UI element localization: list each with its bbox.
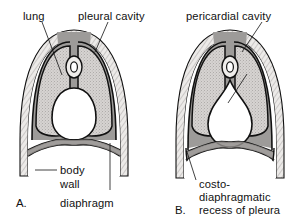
pericardial-cavity-a bbox=[52, 88, 96, 140]
panel-a-letter: A. bbox=[16, 197, 27, 209]
vertebral-body-b bbox=[222, 56, 238, 78]
label-costo-line1: costo- bbox=[199, 178, 230, 190]
panel-b-letter: B. bbox=[175, 204, 186, 216]
label-diaphragm: diaphragm bbox=[60, 197, 114, 209]
label-pericardial-cavity: pericardial cavity bbox=[186, 10, 271, 22]
thorax-cross-section-diagram: lung pleural cavity body wall diaphragm … bbox=[0, 0, 305, 220]
anatomy-figure: lung pleural cavity body wall diaphragm … bbox=[0, 0, 305, 220]
label-costo-line3: recess of pleura bbox=[199, 204, 281, 216]
label-body-wall-line1: body bbox=[60, 164, 85, 176]
label-body-wall-line2: wall bbox=[59, 178, 80, 190]
vertebral-body-a bbox=[66, 56, 82, 78]
label-costo-line2: diaphragmatic bbox=[199, 191, 271, 203]
label-lung: lung bbox=[23, 10, 45, 22]
label-pleural-cavity: pleural cavity bbox=[78, 10, 145, 22]
